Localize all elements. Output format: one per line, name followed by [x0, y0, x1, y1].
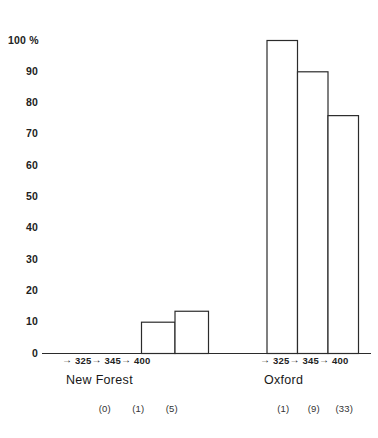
bar-oxford-400 [328, 116, 359, 354]
x-axis-tick-new-forest-400: → 400 [121, 355, 151, 366]
y-axis-tick-value: 70 [26, 127, 38, 139]
y-axis-tick-value: 20 [26, 284, 38, 296]
x-axis-ticks-new-forest: → 325 → 345 → 400 [62, 355, 151, 366]
y-axis-unit-symbol: % [26, 34, 39, 46]
x-axis-tick-label: 400 [134, 355, 150, 366]
y-axis-tick-value: 90 [26, 65, 38, 77]
bar-oxford-345 [298, 72, 329, 354]
x-axis-tick-label: 345 [105, 355, 121, 366]
x-axis-tick-new-forest-325: → 325 [62, 355, 92, 366]
sample-counts-new-forest: (0)(1)(5) [88, 403, 189, 414]
y-axis-tick-40: 40 [8, 222, 38, 233]
x-axis-tick-label: 325 [75, 355, 91, 366]
y-axis-tick-value: 100 [8, 34, 26, 46]
sample-count-oxford-325: (1) [268, 403, 299, 414]
x-axis-ticks-oxford: → 325 → 345 → 400 [260, 355, 349, 366]
y-axis-tick-30: 30 [8, 254, 38, 265]
sample-count-oxford-345: (9) [299, 403, 330, 414]
sample-count-new-forest-345: (1) [122, 403, 156, 414]
x-axis-tick-label: 325 [273, 355, 289, 366]
bar-oxford-325 [267, 41, 298, 354]
bars-layer [142, 41, 359, 354]
x-axis-tick-oxford-325: → 325 [260, 355, 290, 366]
x-axis-tick-oxford-345: → 345 [290, 355, 320, 366]
y-axis-tick-value: 80 [26, 96, 38, 108]
y-axis-tick-70: 70 [8, 128, 38, 139]
y-axis-tick-20: 20 [8, 285, 38, 296]
bar-new-forest-345 [142, 322, 176, 353]
sample-count-new-forest-325: (0) [88, 403, 122, 414]
arrow-right-icon: → [121, 354, 131, 365]
sample-count-new-forest-400: (5) [155, 403, 189, 414]
x-axis-tick-label: 345 [303, 355, 319, 366]
arrow-right-icon: → [92, 354, 102, 365]
sample-count-oxford-400: (33) [329, 403, 360, 414]
arrow-right-icon: → [62, 354, 72, 365]
y-axis-tick-10: 10 [8, 316, 38, 327]
bar-new-forest-400 [175, 311, 209, 353]
y-axis-tick-value: 60 [26, 159, 38, 171]
y-axis-tick-80: 80 [8, 97, 38, 108]
y-axis-tick-100: 100 % [8, 35, 38, 46]
y-axis-tick-90: 90 [8, 66, 38, 77]
y-axis-tick-value: 0 [32, 347, 38, 359]
y-axis-tick-value: 50 [26, 190, 38, 202]
x-axis-tick-oxford-400: → 400 [319, 355, 349, 366]
group-label-oxford: Oxford [264, 373, 303, 387]
x-axis-tick-label: 400 [332, 355, 348, 366]
arrow-right-icon: → [260, 354, 270, 365]
bar-chart: 100 %9080706050403020100 → 325 → 345 → 4… [0, 0, 378, 438]
y-axis-tick-value: 10 [26, 315, 38, 327]
y-axis-tick-value: 30 [26, 253, 38, 265]
arrow-right-icon: → [319, 354, 329, 365]
y-axis-tick-0: 0 [8, 348, 38, 359]
chart-plot-area [0, 0, 378, 438]
group-label-new-forest: New Forest [66, 373, 133, 387]
y-axis-tick-60: 60 [8, 160, 38, 171]
arrow-right-icon: → [290, 354, 300, 365]
y-axis-tick-50: 50 [8, 191, 38, 202]
sample-counts-oxford: (1)(9)(33) [268, 403, 360, 414]
x-axis-tick-new-forest-345: → 345 [92, 355, 122, 366]
y-axis-tick-value: 40 [26, 221, 38, 233]
